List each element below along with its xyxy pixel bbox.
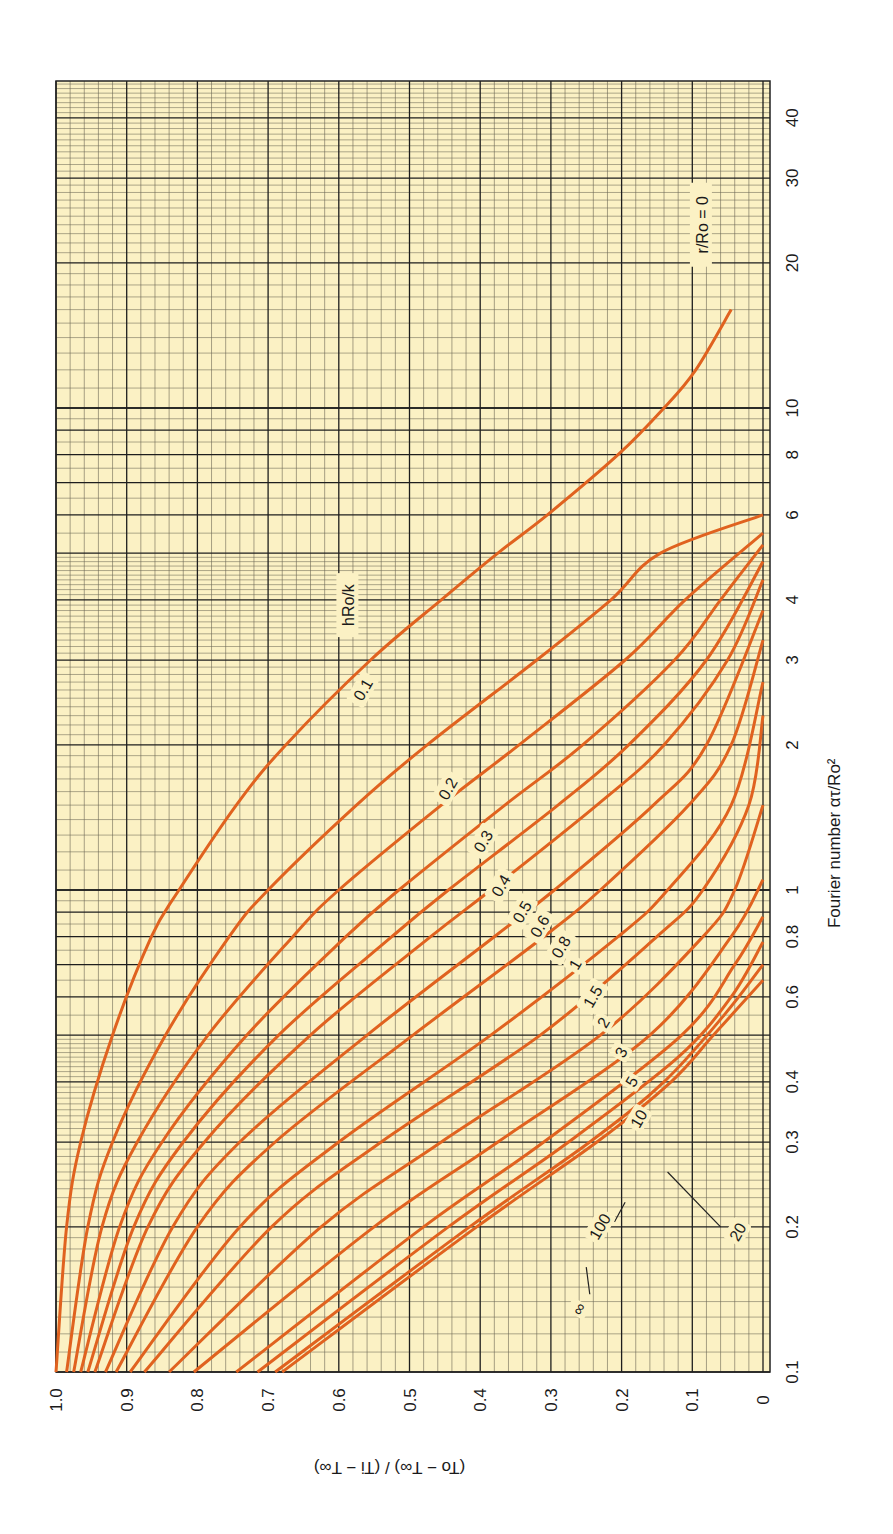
svg-text:0.6: 0.6	[330, 1388, 349, 1412]
fourier-tick-label: 0.2	[783, 1215, 802, 1239]
fourier-tick-label: 20	[783, 253, 802, 272]
svg-text:0.3: 0.3	[542, 1388, 561, 1412]
svg-text:0.5: 0.5	[401, 1388, 420, 1412]
fourier-tick-label: 40	[783, 108, 802, 127]
fourier-tick-label: 0.6	[783, 985, 802, 1009]
fourier-axis-ticks: 0.10.20.30.40.60.812346810203040	[783, 108, 802, 1383]
svg-text:20: 20	[783, 253, 802, 272]
svg-text:0.1: 0.1	[683, 1388, 702, 1412]
fourier-tick-label: 0.3	[783, 1130, 802, 1154]
svg-text:3: 3	[783, 655, 802, 664]
svg-text:8: 8	[783, 450, 802, 459]
svg-text:hRo/k: hRo/k	[340, 583, 357, 626]
svg-text:0.8: 0.8	[188, 1388, 207, 1412]
fourier-tick-label: 6	[783, 510, 802, 519]
theta-tick-label: 0.6	[330, 1388, 349, 1412]
svg-text:2: 2	[783, 740, 802, 749]
theta-tick-label: 1.0	[47, 1388, 66, 1412]
fourier-tick-label: 0.4	[783, 1070, 802, 1094]
theta-axis-title: (To − T∞) / (Ti − T∞)	[314, 1458, 465, 1477]
theta-axis-ticks: 00.10.20.30.40.50.60.70.80.91.0	[47, 1388, 773, 1412]
fourier-axis-title: Fourier number ατ/Ro²	[825, 758, 844, 928]
svg-text:0.4: 0.4	[783, 1070, 802, 1094]
position-annotation: r/Ro = 0	[690, 183, 712, 267]
svg-text:40: 40	[783, 108, 802, 127]
theta-tick-label: 0.5	[401, 1388, 420, 1412]
svg-text:4: 4	[783, 595, 802, 604]
fourier-tick-label: 10	[783, 399, 802, 418]
theta-tick-label: 0.8	[188, 1388, 207, 1412]
fourier-tick-label: 0.8	[783, 925, 802, 949]
svg-text:1: 1	[783, 885, 802, 894]
theta-tick-label: 0.3	[542, 1388, 561, 1412]
theta-tick-label: 0.2	[613, 1388, 632, 1412]
fourier-tick-label: 2	[783, 740, 802, 749]
fourier-tick-label: 0.1	[783, 1360, 802, 1384]
svg-text:0: 0	[754, 1395, 773, 1404]
svg-text:0.1: 0.1	[783, 1360, 802, 1384]
fourier-tick-label: 4	[783, 595, 802, 604]
fourier-tick-label: 8	[783, 450, 802, 459]
svg-text:0.8: 0.8	[783, 925, 802, 949]
fourier-tick-label: 30	[783, 169, 802, 188]
fourier-tick-label: 1	[783, 885, 802, 894]
heisler-chart: 0.10.20.30.40.50.60.811.52351020100∞ hRo…	[0, 0, 893, 1534]
plot-background	[56, 81, 770, 1372]
theta-tick-label: 0.4	[471, 1388, 490, 1412]
theta-tick-label: 0.9	[118, 1388, 137, 1412]
svg-text:0.3: 0.3	[783, 1130, 802, 1154]
svg-text:r/Ro = 0: r/Ro = 0	[694, 196, 711, 253]
svg-text:10: 10	[783, 399, 802, 418]
fourier-tick-label: 3	[783, 655, 802, 664]
svg-text:0.2: 0.2	[613, 1388, 632, 1412]
svg-text:30: 30	[783, 169, 802, 188]
svg-text:0.6: 0.6	[783, 985, 802, 1009]
theta-tick-label: 0.1	[683, 1388, 702, 1412]
legend-title-hRo-k: hRo/k	[336, 573, 358, 637]
theta-tick-label: 0	[754, 1395, 773, 1404]
svg-text:0.2: 0.2	[783, 1215, 802, 1239]
svg-text:1.0: 1.0	[47, 1388, 66, 1412]
svg-text:0.7: 0.7	[259, 1388, 278, 1412]
svg-text:0.4: 0.4	[471, 1388, 490, 1412]
theta-tick-label: 0.7	[259, 1388, 278, 1412]
svg-text:6: 6	[783, 510, 802, 519]
svg-text:0.9: 0.9	[118, 1388, 137, 1412]
